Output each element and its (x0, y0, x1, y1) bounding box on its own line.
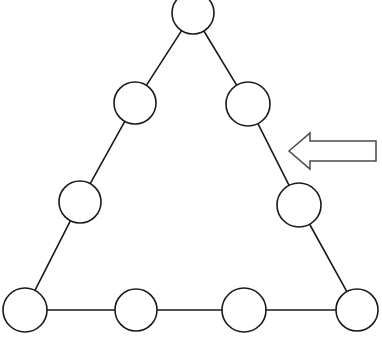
edge-apex-left-upper (146, 31, 181, 86)
node-left-middle[interactable] (59, 181, 101, 223)
edge-right-middle-bottom-right (310, 224, 347, 291)
pointer-arrow-group (289, 133, 376, 169)
node-right-upper[interactable] (226, 82, 270, 126)
left-arrow-icon (289, 133, 376, 169)
edge-group (35, 31, 347, 310)
node-bottom-third[interactable] (222, 288, 266, 332)
edge-apex-right-upper (204, 31, 237, 85)
node-apex[interactable] (172, 0, 214, 34)
node-bottom-second[interactable] (115, 289, 157, 331)
edge-left-middle-bottom-left (35, 221, 70, 291)
node-left-upper[interactable] (114, 82, 156, 124)
node-bottom-right[interactable] (336, 289, 378, 331)
edge-left-upper-left-middle (90, 121, 125, 183)
triangle-puzzle-figure (0, 0, 382, 341)
edge-right-upper-right-middle (258, 124, 289, 186)
diagram-canvas (0, 0, 382, 341)
node-group (3, 0, 378, 332)
node-right-middle[interactable] (277, 183, 321, 227)
node-bottom-left[interactable] (3, 288, 47, 332)
